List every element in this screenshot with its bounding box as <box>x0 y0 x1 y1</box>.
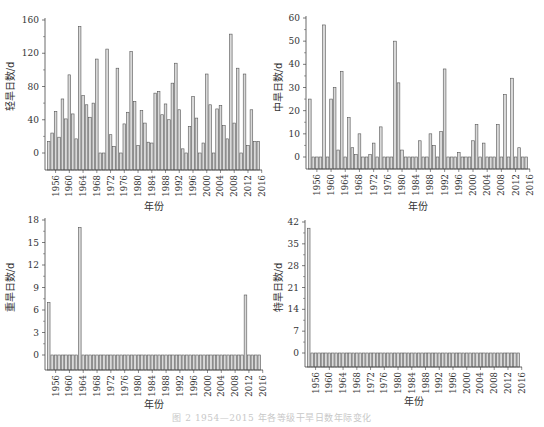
bar-1972 <box>109 135 112 170</box>
y-tick-label: 0 <box>294 152 300 162</box>
bar-1964 <box>344 157 347 169</box>
x-tick-label: 1988 <box>425 174 435 196</box>
x-tick-label: 2016 <box>525 174 535 196</box>
bar-1991 <box>175 63 178 170</box>
bar-1989 <box>168 355 171 370</box>
bar-2011 <box>243 74 246 170</box>
bar-1992 <box>438 353 441 367</box>
bar-1991 <box>440 132 443 169</box>
bar-1977 <box>386 353 389 367</box>
bar-1983 <box>407 353 410 367</box>
chart-light-drought: 0408012016019561960196419681972197619801… <box>0 0 272 215</box>
bar-2011 <box>503 353 506 367</box>
bar-1973 <box>113 355 116 370</box>
bar-1982 <box>404 353 407 367</box>
bar-1961 <box>72 355 75 370</box>
bar-2014 <box>254 141 257 170</box>
bar-1961 <box>331 353 334 367</box>
bar-1993 <box>441 353 444 367</box>
bar-1987 <box>426 157 429 169</box>
bar-1955 <box>312 157 315 169</box>
bar-2012 <box>248 355 251 370</box>
bar-1991 <box>435 353 438 367</box>
bar-1971 <box>369 155 372 169</box>
bar-1958 <box>323 25 326 169</box>
x-tick-label: 1972 <box>106 375 116 397</box>
bar-1979 <box>397 83 400 169</box>
bar-1998 <box>459 353 462 367</box>
bar-1964 <box>82 96 85 170</box>
bar-1992 <box>179 355 182 370</box>
bar-1969 <box>362 157 365 169</box>
bar-1954 <box>47 141 50 170</box>
bar-1960 <box>68 75 71 170</box>
x-tick-label: 1956 <box>51 375 61 397</box>
bar-1976 <box>383 353 386 367</box>
bar-1983 <box>147 142 150 170</box>
bar-1995 <box>454 157 457 169</box>
x-tick-label: 1960 <box>326 174 336 196</box>
bar-1962 <box>75 139 78 170</box>
bar-2001 <box>210 355 213 370</box>
x-tick-label: 1972 <box>366 372 376 394</box>
x-tick-label: 1992 <box>175 375 185 397</box>
bar-1981 <box>141 355 144 370</box>
bar-2003 <box>217 355 220 370</box>
x-tick-label: 1996 <box>454 174 464 196</box>
bar-1999 <box>203 355 206 370</box>
bar-1988 <box>424 353 427 367</box>
bar-2004 <box>479 353 482 367</box>
bar-1993 <box>447 157 450 169</box>
x-tick-label: 1968 <box>352 372 362 394</box>
y-tick-label: 20 <box>289 106 301 116</box>
bar-1958 <box>61 355 64 370</box>
bar-2011 <box>244 295 247 370</box>
bar-2010 <box>241 355 244 370</box>
x-tick-label: 1988 <box>421 372 431 394</box>
bar-2008 <box>234 355 237 370</box>
bar-1957 <box>319 157 322 169</box>
y-tick-label: 80 <box>28 82 40 92</box>
bar-1972 <box>369 353 372 367</box>
x-tick-label: 1956 <box>311 372 321 394</box>
bar-1986 <box>422 157 425 169</box>
y-tick-label: 0 <box>293 348 299 358</box>
bar-2007 <box>229 34 232 170</box>
bar-2000 <box>465 353 468 367</box>
bar-1986 <box>417 353 420 367</box>
bar-2002 <box>213 355 216 370</box>
bar-1989 <box>428 353 431 367</box>
bar-2003 <box>482 143 485 169</box>
y-tick-label: 21 <box>288 283 299 293</box>
x-tick-label: 1968 <box>354 174 364 196</box>
x-tick-label: 2000 <box>202 175 212 197</box>
bar-1999 <box>202 143 205 170</box>
bar-1989 <box>168 120 171 170</box>
bar-1957 <box>318 353 321 367</box>
bar-1970 <box>365 157 368 169</box>
bar-1984 <box>150 143 153 170</box>
x-tick-label: 1972 <box>369 174 379 196</box>
bar-2004 <box>219 106 222 170</box>
x-tick-label: 2012 <box>503 372 513 394</box>
bar-2002 <box>479 157 482 169</box>
bar-1977 <box>390 157 393 169</box>
bar-1997 <box>196 355 199 370</box>
bar-1990 <box>436 157 439 169</box>
y-tick-label: 0 <box>33 350 39 360</box>
bar-1985 <box>414 353 417 367</box>
chart-extreme-drought: 0714212835421956196019641968197219761980… <box>272 210 544 410</box>
bar-1962 <box>335 353 338 367</box>
y-tick-label: 0 <box>33 148 39 158</box>
bar-2005 <box>489 157 492 169</box>
bar-2001 <box>475 125 478 169</box>
x-tick-label: 1996 <box>448 372 458 394</box>
bar-1969 <box>359 353 362 367</box>
bar-1983 <box>411 157 414 169</box>
x-tick-label: 1984 <box>411 174 421 196</box>
x-tick-label: 1984 <box>147 175 157 197</box>
bar-2014 <box>521 157 524 169</box>
bar-1974 <box>376 353 379 367</box>
bar-1999 <box>462 353 465 367</box>
x-tick-label: 1960 <box>64 175 74 197</box>
